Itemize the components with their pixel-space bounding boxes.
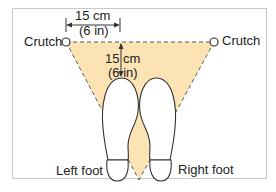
- horizontal-measure-in: (6 in): [79, 23, 109, 38]
- crutch-right-label: Crutch: [222, 33, 260, 48]
- crutch-left-tip-icon: [62, 38, 70, 46]
- right-foot-label: Right foot: [178, 162, 234, 177]
- vertical-measure-in: (6 in): [108, 65, 138, 80]
- crutch-left-label: Crutch: [24, 34, 62, 49]
- crutch-diagram: 15 cm (6 in) Crutch Crutch 15 cm (6 in) …: [0, 0, 276, 192]
- crutch-right-tip-icon: [210, 38, 218, 46]
- horizontal-measure-cm: 15 cm: [75, 8, 110, 23]
- vertical-measure-cm: 15 cm: [105, 51, 140, 66]
- left-foot-label: Left foot: [56, 163, 103, 178]
